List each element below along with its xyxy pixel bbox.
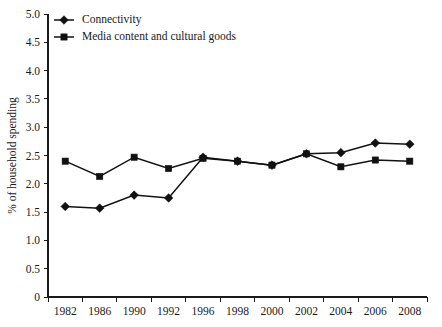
data-point-marker [407, 158, 413, 164]
y-tick-label: 3.0 [26, 121, 41, 133]
legend-label: Connectivity [82, 13, 142, 26]
y-tick-label: 0 [34, 291, 40, 303]
data-point-marker [62, 158, 68, 164]
data-point-marker [95, 204, 104, 213]
data-point-marker [130, 191, 139, 200]
y-tick-label: 1.5 [26, 206, 41, 218]
x-tick-label: 1992 [157, 305, 180, 317]
data-point-marker [371, 139, 380, 148]
x-tick-label: 1990 [123, 305, 146, 317]
y-tick-label: 5.0 [26, 8, 41, 20]
x-tick-label: 1986 [88, 305, 111, 317]
y-tick-label: 1.0 [26, 234, 41, 246]
legend-marker-diamond [60, 16, 69, 25]
data-point-marker [338, 164, 344, 170]
series-line-1 [65, 143, 410, 208]
legend-marker-square [61, 34, 67, 40]
y-tick-label: 2.5 [26, 150, 41, 162]
y-tick-label: 4.0 [26, 65, 41, 77]
data-point-marker [337, 148, 346, 157]
y-tick-label: 2.0 [26, 178, 41, 190]
line-chart: 00.51.01.52.02.53.03.54.04.55.0198219861… [0, 0, 442, 327]
chart-plot-area: 00.51.01.52.02.53.03.54.04.55.0198219861… [0, 0, 442, 327]
legend-label: Media content and cultural goods [82, 30, 236, 43]
y-tick-label: 0.5 [26, 263, 41, 275]
data-point-marker [372, 157, 378, 163]
legend-item-2: Media content and cultural goods [54, 30, 236, 43]
x-tick-label: 2006 [364, 305, 387, 317]
x-tick-label: 2008 [398, 305, 421, 317]
x-tick-label: 1982 [54, 305, 77, 317]
data-point-marker [303, 151, 309, 157]
data-point-marker [131, 154, 137, 160]
data-point-marker [200, 155, 206, 161]
x-tick-label: 1996 [192, 305, 215, 317]
x-tick-label: 1998 [226, 305, 249, 317]
y-tick-label: 3.5 [26, 93, 41, 105]
legend-item-1: Connectivity [54, 13, 142, 26]
series-1 [61, 139, 414, 213]
x-tick-label: 2000 [260, 305, 283, 317]
data-point-marker [405, 140, 414, 149]
data-point-marker [165, 165, 171, 171]
data-point-marker [234, 158, 240, 164]
data-point-marker [61, 202, 70, 211]
y-tick-label: 4.5 [26, 36, 41, 48]
data-point-marker [269, 162, 275, 168]
data-point-marker [97, 173, 103, 179]
y-axis-title: % of household spending [6, 97, 19, 214]
x-tick-label: 2004 [329, 305, 352, 317]
x-tick-label: 2002 [295, 305, 318, 317]
